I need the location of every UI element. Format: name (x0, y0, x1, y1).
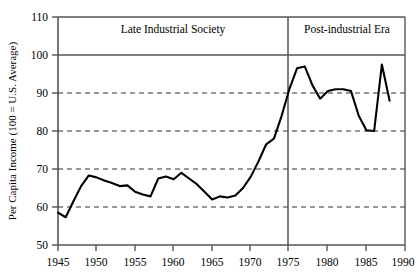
x-tick-label-1970: 1970 (239, 256, 262, 268)
chart-figure: 110 100 90 80 70 60 50 1945 1950 1955 (0, 0, 420, 276)
x-tick-label-1975: 1975 (277, 256, 300, 268)
y-tick-label-90: 90 (37, 87, 49, 99)
x-tick-label-1960: 1960 (162, 256, 185, 268)
x-tick-label-1955: 1955 (124, 256, 147, 268)
chart-background (0, 0, 420, 276)
x-tick-label-1985: 1985 (355, 256, 378, 268)
x-tick-label-1950: 1950 (85, 256, 108, 268)
era-label-post-industrial-era: Post-industrial Era (304, 23, 390, 35)
per-capita-income-line-chart: 110 100 90 80 70 60 50 1945 1950 1955 (0, 0, 420, 276)
x-tick-label-1945: 1945 (47, 256, 70, 268)
y-tick-label-110: 110 (31, 11, 48, 23)
y-tick-label-60: 60 (37, 201, 49, 213)
y-tick-label-100: 100 (31, 49, 49, 61)
y-tick-label-50: 50 (37, 239, 49, 251)
y-tick-label-80: 80 (37, 125, 49, 137)
x-tick-label-1965: 1965 (201, 256, 224, 268)
x-tick-label-1990: 1990 (392, 256, 415, 268)
y-axis-title: Per Capita Income (100 = U.S. Average) (6, 42, 19, 221)
x-tick-label-1980: 1980 (316, 256, 339, 268)
y-tick-label-70: 70 (37, 163, 49, 175)
era-label-late-industrial-society: Late Industrial Society (121, 23, 226, 36)
